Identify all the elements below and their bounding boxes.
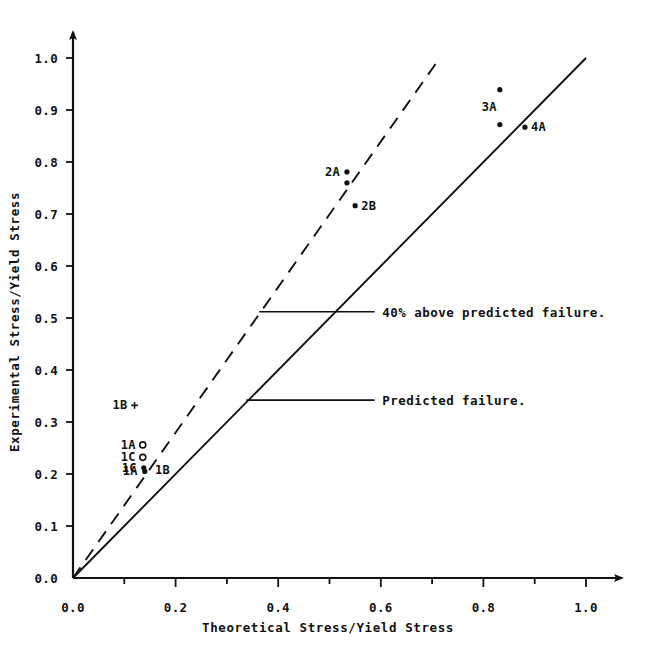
data-point-marker: [353, 203, 358, 208]
data-point-label: 2A: [325, 165, 340, 179]
y-tick-label: 0.8: [20, 155, 58, 170]
y-tick-label: 0.6: [20, 259, 58, 274]
chart-figure: 0.00.10.20.30.40.50.60.70.80.91.0 0.00.2…: [0, 0, 648, 645]
data-point-marker: [497, 122, 502, 127]
data-point-label: 4A: [531, 120, 546, 134]
y-tick-label: 0.3: [20, 415, 58, 430]
x-tick-label: 0.6: [369, 600, 392, 615]
data-point-marker: [140, 454, 146, 460]
x-tick-label: 1.0: [574, 600, 597, 615]
data-point-label: 1B: [155, 463, 170, 477]
annotation-lower-annotation: Predicted failure.: [382, 393, 526, 408]
y-tick-label: 0.7: [20, 207, 58, 222]
data-point-marker: [497, 87, 502, 92]
data-point-label: 1B: [112, 398, 127, 412]
annotation-leader-lines: [246, 312, 374, 400]
data-point-marker: [344, 169, 349, 174]
x-axis-title: Theoretical Stress/Yield Stress: [202, 620, 454, 635]
y-tick-label: 1.0: [20, 51, 58, 66]
x-tick-label: 0.8: [472, 600, 495, 615]
x-tick-label: 0.4: [266, 600, 289, 615]
data-point-label: 2B: [361, 199, 376, 213]
y-tick-label: 0.1: [20, 519, 58, 534]
data-point-marker: [131, 402, 138, 409]
data-point-marker: [344, 180, 349, 185]
data-points: [131, 87, 527, 474]
data-point-marker: [140, 442, 146, 448]
data-point-label: 1A: [123, 464, 138, 478]
y-axis-title: Experimental Stress/Yield Stress: [7, 192, 22, 452]
plot-canvas: [0, 0, 648, 645]
y-tick-label: 0.2: [20, 467, 58, 482]
data-point-marker: [142, 469, 147, 474]
data-point-label: 3A: [482, 100, 497, 114]
y-tick-label: 0.5: [20, 311, 58, 326]
x-tick-label: 0.0: [61, 600, 84, 615]
data-point-marker: [522, 125, 527, 130]
x-tick-label: 0.2: [164, 600, 187, 615]
y-tick-label: 0.4: [20, 363, 58, 378]
y-tick-label: 0.9: [20, 103, 58, 118]
y-tick-label: 0.0: [20, 571, 58, 586]
annotation-upper-annotation: 40% above predicted failure.: [382, 304, 605, 319]
